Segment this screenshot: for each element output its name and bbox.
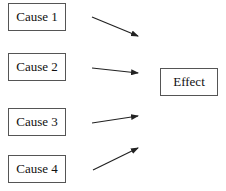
- arrows-layer: [0, 0, 226, 191]
- arrow-cause-1: [92, 17, 138, 36]
- arrow-cause-3: [92, 116, 138, 123]
- arrow-cause-4: [93, 148, 138, 170]
- arrow-cause-2: [92, 68, 138, 73]
